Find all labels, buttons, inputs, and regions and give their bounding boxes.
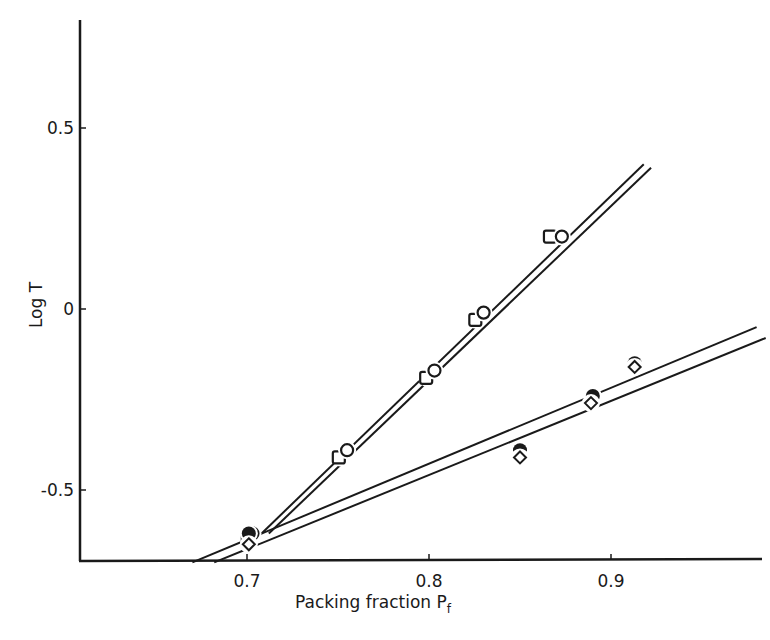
x-tick-label: 0.9 xyxy=(597,571,624,591)
x-axis xyxy=(79,559,762,561)
fit-line xyxy=(214,338,765,562)
y-axis-label: Log T xyxy=(26,281,46,328)
fit-line xyxy=(192,327,756,562)
x-tick-label: 0.7 xyxy=(233,571,260,591)
fit-line xyxy=(269,168,651,534)
chart: 0.70.80.9 0.50-0.5 Packing fraction Pf L… xyxy=(0,0,770,640)
data-point xyxy=(478,307,490,319)
fit-lines xyxy=(192,164,765,562)
fit-line xyxy=(262,164,644,533)
axes xyxy=(79,20,762,561)
x-tick-label: 0.8 xyxy=(415,571,442,591)
y-tick-label: 0 xyxy=(63,299,74,319)
data-point xyxy=(428,365,440,377)
x-axis-label: Packing fraction Pf xyxy=(295,592,452,616)
data-point xyxy=(556,231,568,243)
data-point xyxy=(341,444,353,456)
y-tick-label: 0.5 xyxy=(47,118,74,138)
y-tick-label: -0.5 xyxy=(41,480,74,500)
